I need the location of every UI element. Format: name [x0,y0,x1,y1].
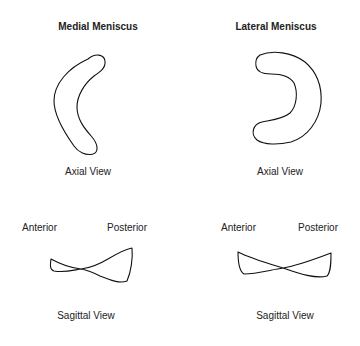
medial-posterior-label: Posterior [107,222,147,234]
lateral-sagittal-shape [238,252,331,277]
medial-anterior-label: Anterior [22,222,57,234]
medial-sagittal-label: Sagittal View [57,310,115,322]
lateral-sagittal-label: Sagittal View [256,310,314,322]
lateral-anterior-label: Anterior [221,222,256,234]
medial-sagittal-shape [50,248,132,282]
lateral-axial-label: Axial View [257,166,303,178]
medial-axial-shape [54,55,105,154]
medial-axial-label: Axial View [65,166,111,178]
lateral-axial-shape [253,52,321,144]
meniscus-shapes [0,0,360,346]
lateral-posterior-label: Posterior [298,222,338,234]
